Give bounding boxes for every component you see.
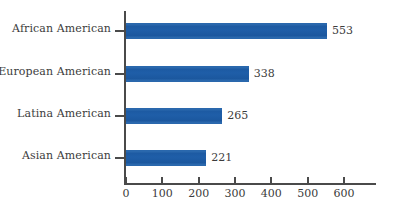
x-axis-tick [307, 177, 309, 183]
category-label: Asian American [22, 148, 111, 164]
category-tick [115, 73, 124, 75]
category-label: Latina American [17, 106, 111, 122]
category-label: African American [12, 21, 111, 37]
bar-chart: African American 553 European American 3… [0, 0, 393, 209]
x-axis-tick-label: 200 [188, 187, 209, 200]
x-axis-tick-label: 100 [152, 187, 173, 200]
x-axis-tick [161, 177, 163, 183]
bar-value-label: 338 [254, 65, 275, 82]
category-tick [115, 115, 124, 117]
bar-value-label: 265 [227, 107, 248, 124]
x-axis-tick [270, 177, 272, 183]
chart-row: Latina American 265 [0, 108, 393, 124]
x-axis-tick [198, 177, 200, 183]
bar [126, 23, 327, 39]
chart-row: Asian American 221 [0, 150, 393, 166]
x-axis-tick [343, 177, 345, 183]
bar [126, 108, 222, 124]
chart-row: European American 338 [0, 66, 393, 82]
category-tick [115, 157, 124, 159]
category-label: European American [0, 64, 111, 80]
x-axis-line [124, 183, 376, 185]
x-axis-tick-label: 400 [261, 187, 282, 200]
bar [126, 66, 249, 82]
x-axis-tick-label: 500 [297, 187, 318, 200]
category-tick [115, 30, 124, 32]
x-axis-tick-label: 600 [334, 187, 355, 200]
bar-value-label: 221 [211, 149, 232, 166]
x-axis-tick [125, 177, 127, 183]
bar-value-label: 553 [332, 22, 353, 39]
x-axis-tick-label: 0 [123, 187, 130, 200]
chart-row: African American 553 [0, 23, 393, 39]
bar [126, 150, 206, 166]
x-axis-tick-label: 300 [225, 187, 246, 200]
x-axis-tick [234, 177, 236, 183]
